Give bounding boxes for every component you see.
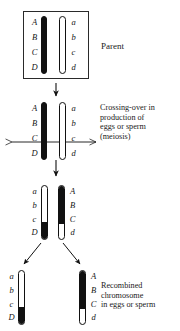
allele-label: a [68, 104, 79, 113]
allele-label: a [29, 187, 40, 196]
allele-label: C [29, 48, 40, 57]
allele-label: c [29, 215, 40, 224]
allele-label: A [29, 18, 40, 27]
allele-label: D [6, 313, 17, 322]
allele-label: B [29, 33, 40, 42]
recombinant-right-allele-labels: A B C d [67, 187, 78, 237]
chromosome-parent-maternal [41, 16, 47, 74]
allele-label: a [6, 272, 17, 281]
allele-label: d [67, 228, 78, 237]
allele-label: C [67, 215, 78, 224]
chromosome-black-segment [19, 307, 24, 324]
chromosome-gamete-left [18, 270, 25, 325]
allele-label: c [6, 300, 17, 309]
caption-recombined: Recombined chromosome in eggs or sperm [101, 281, 155, 310]
allele-label: D [29, 228, 40, 237]
allele-label: c [68, 134, 79, 143]
crossing-over-diagram: A B C D a b c d Parent A B C D a b c d C… [0, 0, 180, 331]
allele-label: b [68, 33, 79, 42]
recombinant-left-allele-labels: a b c D [29, 187, 40, 237]
parent-left-allele-labels: A B C D [29, 18, 40, 72]
allele-label: b [29, 201, 40, 210]
meiosis-right-allele-labels: a b c d [68, 104, 79, 158]
allele-label: b [68, 119, 79, 128]
allele-label: d [68, 149, 79, 158]
caption-parent: Parent [101, 41, 124, 52]
chromosome-black-segment [59, 186, 64, 224]
gamete-left-allele-labels: a b c D [6, 272, 17, 322]
allele-label: C [88, 300, 99, 309]
allele-label: A [88, 272, 99, 281]
allele-label: B [29, 119, 40, 128]
allele-label: A [67, 187, 78, 196]
caption-crossing-over: Crossing-over in production of eggs or s… [100, 103, 155, 142]
arrow-recomb-left-to-gamete [24, 243, 41, 264]
chromosome-black-segment [80, 271, 85, 309]
chromosome-black-segment [42, 222, 47, 239]
allele-label: c [68, 48, 79, 57]
chromosome-meiosis-paternal [59, 102, 66, 160]
parent-right-allele-labels: a b c d [68, 18, 79, 72]
chromosome-recombinant-right [58, 185, 65, 240]
allele-label: d [68, 63, 79, 72]
allele-label: a [68, 18, 79, 27]
allele-label: b [6, 286, 17, 295]
allele-label: C [29, 134, 40, 143]
chromosome-gamete-right [79, 270, 86, 325]
meiosis-left-allele-labels: A B C D [29, 104, 40, 158]
chromosome-recombinant-left [41, 185, 48, 240]
allele-label: B [88, 286, 99, 295]
arrow-recomb-right-to-gamete [63, 243, 80, 264]
allele-label: D [29, 63, 40, 72]
allele-label: A [29, 104, 40, 113]
chromosome-meiosis-maternal [41, 102, 47, 160]
allele-label: D [29, 149, 40, 158]
allele-label: d [88, 313, 99, 322]
allele-label: B [67, 201, 78, 210]
gamete-right-allele-labels: A B C d [88, 272, 99, 322]
chromosome-parent-paternal [59, 16, 66, 74]
